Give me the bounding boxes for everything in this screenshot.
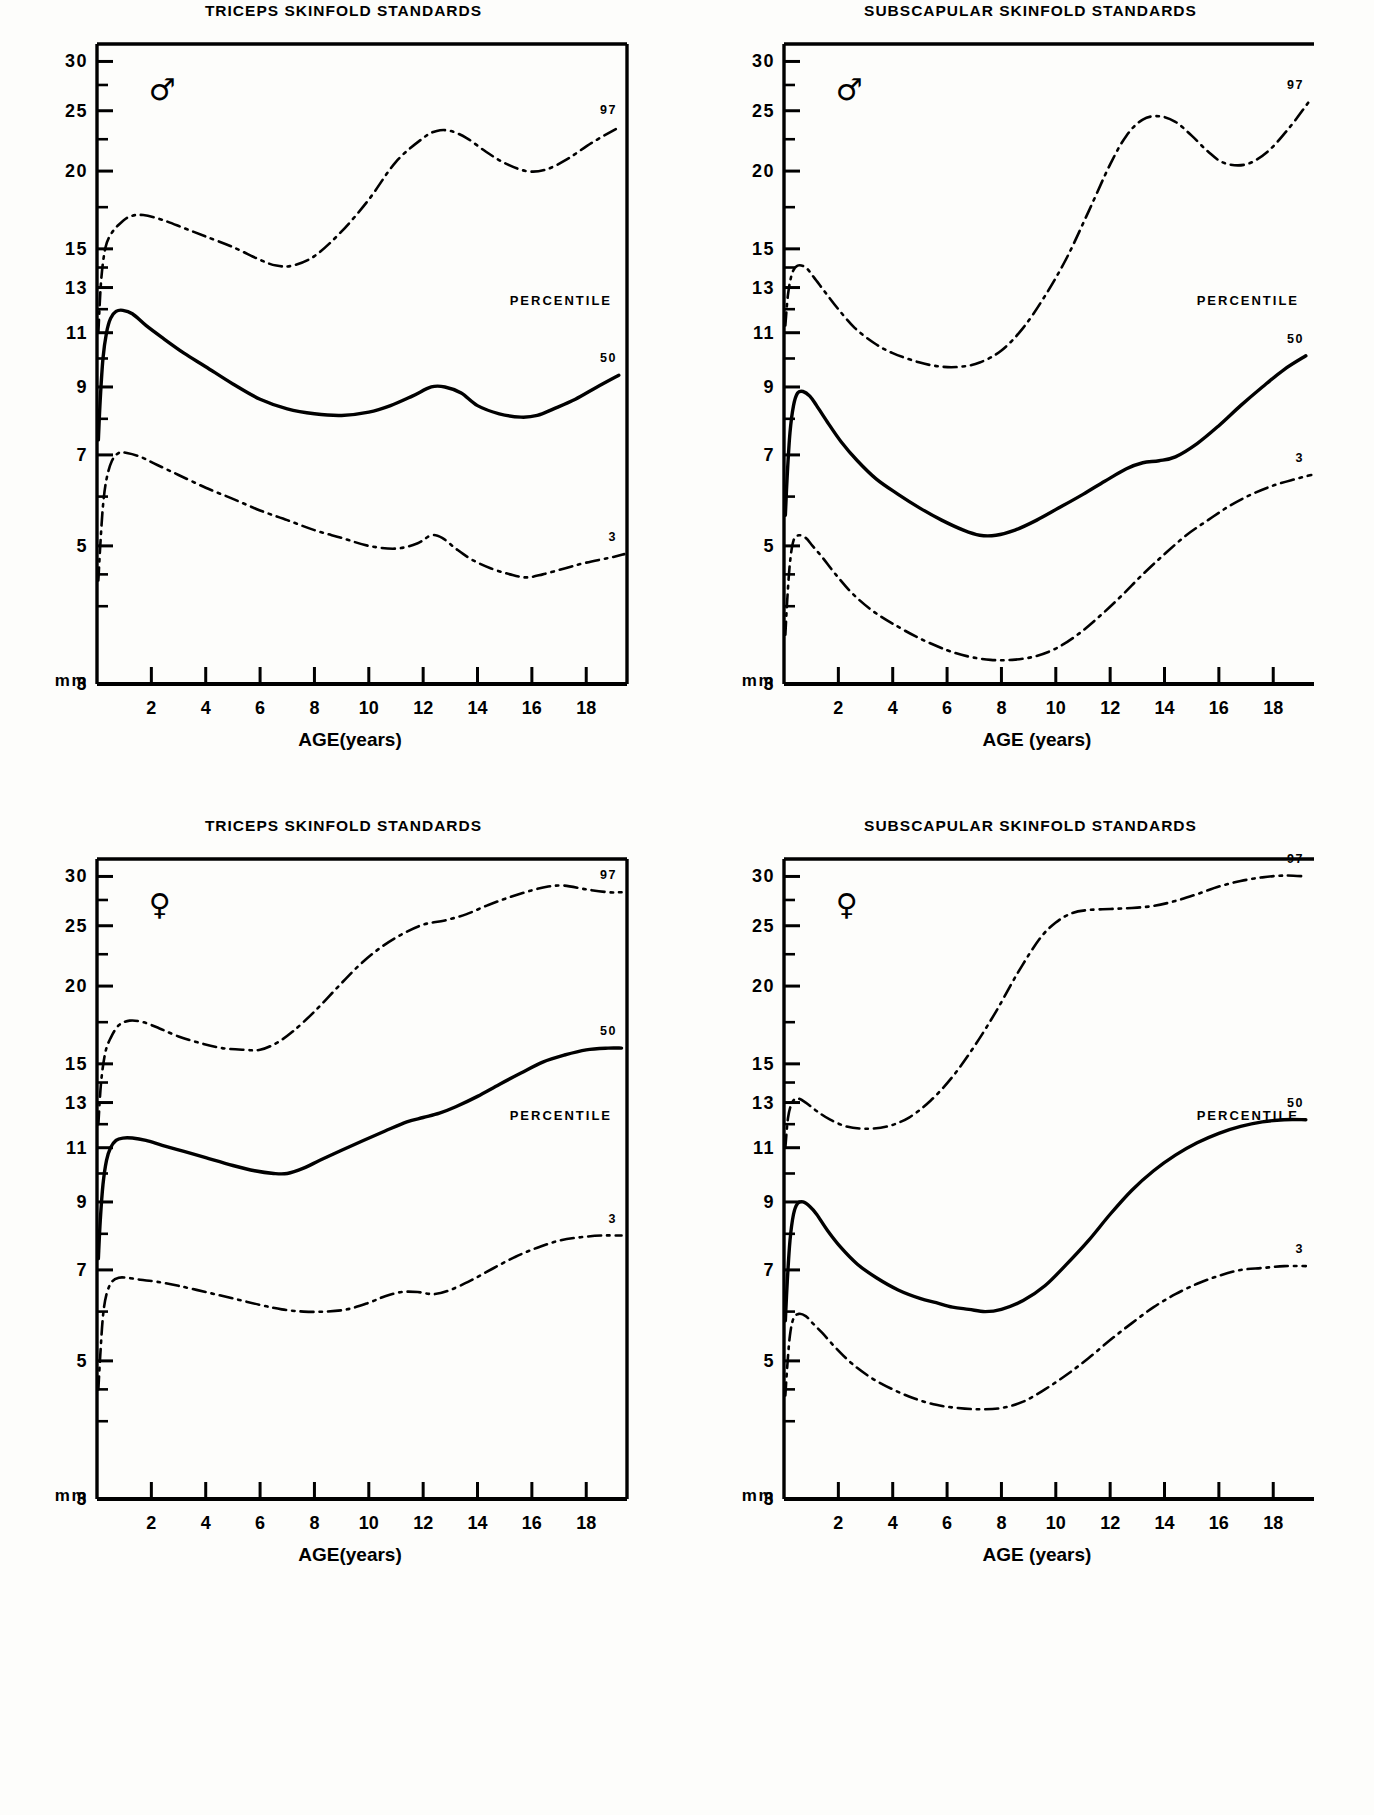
- percentile-word: PERCENTILE: [510, 1108, 612, 1123]
- axes-group: [97, 859, 627, 1499]
- x-tick-label: 2: [146, 698, 156, 718]
- y-ticks-group: 3025201513119753: [65, 866, 113, 1509]
- x-tick-label: 16: [1209, 698, 1229, 718]
- x-tick-label: 6: [942, 1513, 952, 1533]
- x-tick-label: 14: [467, 698, 487, 718]
- axes-group: [784, 44, 1314, 684]
- x-ticks-group: 24681012141618: [833, 667, 1283, 718]
- curve-p50: [785, 356, 1305, 536]
- y-tick-label: 15: [65, 1054, 88, 1074]
- y-tick-label: 20: [65, 161, 88, 181]
- panel-title: SUBSCAPULAR SKINFOLD STANDARDS: [687, 2, 1374, 20]
- y-tick-label: 11: [753, 1138, 775, 1158]
- x-ticks-group: 24681012141618: [833, 1482, 1283, 1533]
- y-tick-label: 7: [76, 445, 88, 465]
- panel-title: TRICEPS SKINFOLD STANDARDS: [0, 2, 687, 20]
- y-tick-label: 30: [65, 866, 88, 886]
- y-tick-label: 11: [753, 323, 775, 343]
- chart-svg-male: 3025201513119753mm24681012141618AGE(year…: [97, 44, 747, 804]
- sex-symbol-female: ♀: [836, 887, 858, 922]
- y-tick-label: 30: [752, 51, 775, 71]
- x-tick-label: 10: [359, 1513, 379, 1533]
- x-tick-label: 12: [413, 698, 433, 718]
- axes-group: [97, 44, 627, 684]
- x-tick-label: 8: [309, 1513, 319, 1533]
- panel-subscapular-male: SUBSCAPULAR SKINFOLD STANDARDS 302520151…: [687, 0, 1374, 795]
- y-tick-label: 20: [752, 976, 775, 996]
- chart-svg-female: 3025201513119753mm24681012141618AGE (yea…: [784, 859, 1374, 1619]
- x-tick-label: 16: [522, 1513, 542, 1533]
- curves-group: [785, 876, 1305, 1410]
- x-tick-label: 18: [576, 698, 596, 718]
- x-tick-label: 4: [888, 1513, 898, 1533]
- y-tick-label: 15: [65, 239, 88, 259]
- x-tick-label: 12: [1100, 698, 1120, 718]
- chart-svg-male: 3025201513119753mm24681012141618AGE (yea…: [784, 44, 1374, 804]
- x-tick-label: 4: [201, 1513, 211, 1533]
- percentile-label-50: 50: [1287, 1096, 1304, 1110]
- x-tick-label: 4: [201, 698, 211, 718]
- percentile-label-50: 50: [1287, 332, 1304, 346]
- x-axis-title: AGE(years): [298, 1544, 402, 1565]
- axes-group: [784, 859, 1314, 1499]
- x-tick-label: 12: [413, 1513, 433, 1533]
- x-tick-label: 2: [833, 1513, 843, 1533]
- x-tick-label: 12: [1100, 1513, 1120, 1533]
- unit-label: mm: [742, 1486, 775, 1505]
- y-tick-label: 9: [763, 377, 775, 397]
- sex-symbol-male: ♂: [149, 72, 176, 107]
- x-tick-label: 6: [255, 698, 265, 718]
- x-ticks-group: 24681012141618: [146, 1482, 596, 1533]
- x-tick-label: 2: [833, 698, 843, 718]
- y-tick-label: 9: [76, 1192, 88, 1212]
- percentile-word: PERCENTILE: [1197, 293, 1299, 308]
- y-tick-label: 15: [752, 239, 775, 259]
- x-tick-label: 14: [1154, 1513, 1174, 1533]
- x-tick-label: 18: [576, 1513, 596, 1533]
- x-tick-label: 18: [1263, 698, 1283, 718]
- y-tick-label: 7: [763, 1260, 775, 1280]
- x-tick-label: 14: [1154, 698, 1174, 718]
- y-ticks-group: 3025201513119753: [752, 51, 800, 694]
- percentile-word: PERCENTILE: [510, 293, 612, 308]
- x-tick-label: 8: [309, 698, 319, 718]
- percentile-label-3: 3: [608, 530, 617, 544]
- y-tick-label: 11: [66, 323, 88, 343]
- y-tick-label: 5: [763, 1351, 775, 1371]
- y-tick-label: 15: [752, 1054, 775, 1074]
- plot-area-subscapular-female: 3025201513119753mm24681012141618AGE (yea…: [742, 847, 1374, 1619]
- y-tick-label: 5: [76, 1351, 88, 1371]
- y-tick-label: 9: [763, 1192, 775, 1212]
- curves-group: [98, 885, 621, 1389]
- x-tick-label: 10: [1046, 1513, 1066, 1533]
- curves-group: [98, 127, 624, 580]
- plot-area-subscapular-male: 3025201513119753mm24681012141618AGE (yea…: [742, 32, 1374, 804]
- x-tick-label: 2: [146, 1513, 156, 1533]
- percentile-label-97: 97: [1287, 78, 1304, 92]
- y-tick-label: 5: [763, 536, 775, 556]
- curve-p3: [785, 475, 1311, 660]
- curve-p50: [98, 310, 618, 440]
- y-tick-label: 25: [752, 916, 775, 936]
- y-tick-label: 7: [76, 1260, 88, 1280]
- sex-symbol-female: ♀: [149, 887, 171, 922]
- plot-area-triceps-male: 3025201513119753mm24681012141618AGE(year…: [55, 32, 747, 804]
- x-tick-label: 18: [1263, 1513, 1283, 1533]
- y-tick-label: 13: [752, 278, 775, 298]
- curve-p3: [98, 1235, 621, 1389]
- unit-label: mm: [55, 671, 88, 690]
- y-tick-label: 11: [66, 1138, 88, 1158]
- y-tick-label: 25: [65, 101, 88, 121]
- x-ticks-group: 24681012141618: [146, 667, 596, 718]
- sex-symbol-male: ♂: [836, 72, 863, 107]
- curves-group: [785, 102, 1311, 660]
- curve-p50: [785, 1120, 1305, 1321]
- percentile-label-50: 50: [600, 351, 617, 365]
- y-ticks-group: 3025201513119753: [752, 866, 800, 1509]
- x-tick-label: 6: [255, 1513, 265, 1533]
- percentile-label-97: 97: [1287, 852, 1304, 866]
- y-tick-label: 30: [65, 51, 88, 71]
- panel-subscapular-female: SUBSCAPULAR SKINFOLD STANDARDS 302520151…: [687, 795, 1374, 1815]
- x-axis-title: AGE (years): [983, 1544, 1092, 1565]
- unit-label: mm: [55, 1486, 88, 1505]
